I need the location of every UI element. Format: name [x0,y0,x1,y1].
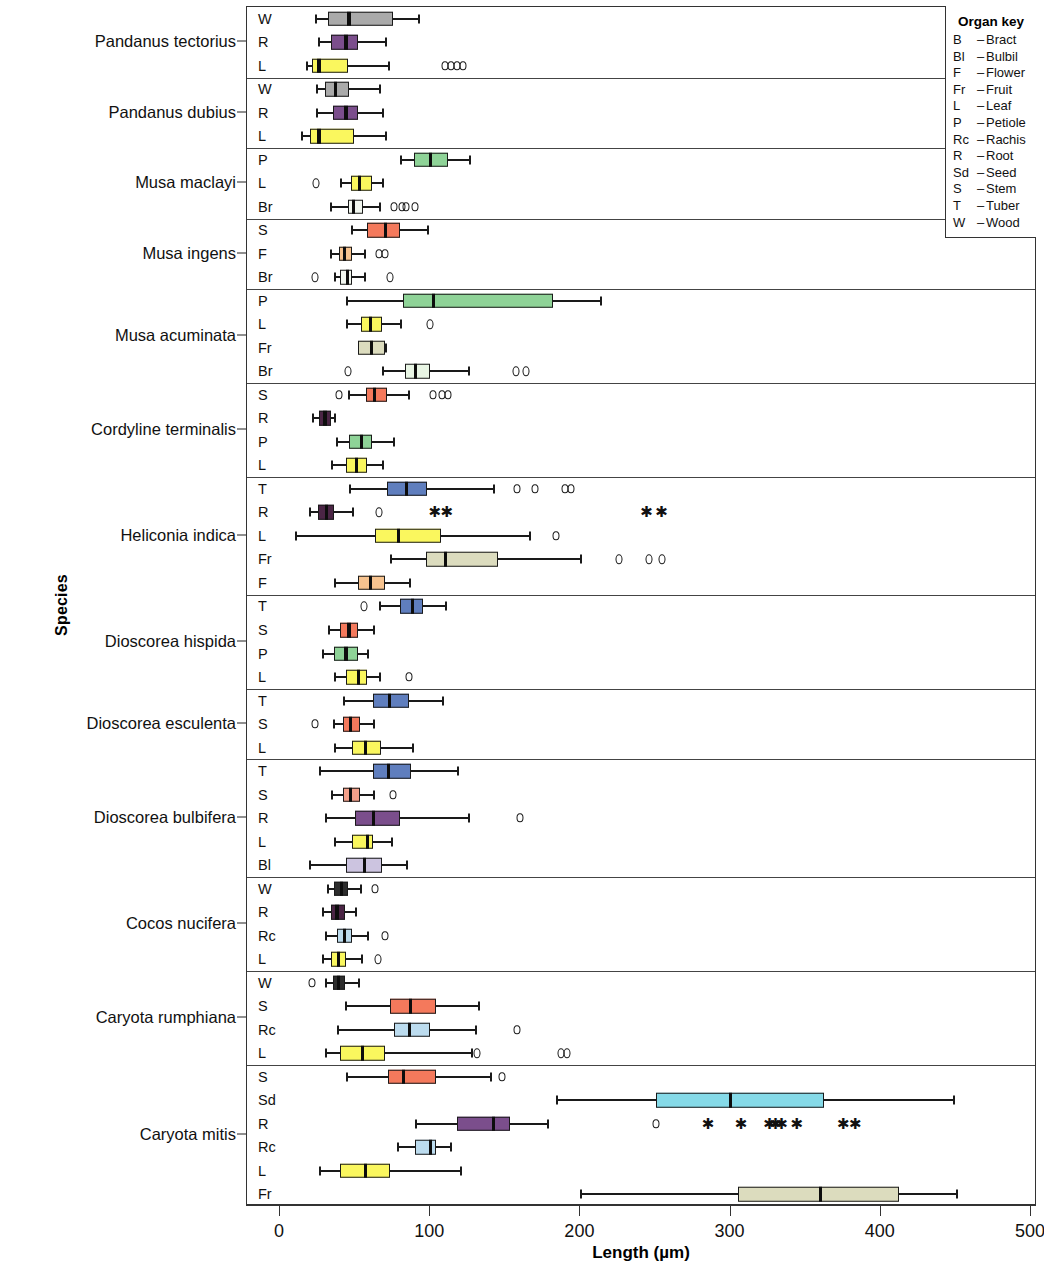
median-line [349,787,352,802]
outlier-marker [553,531,560,540]
whisker-cap-high [364,273,366,282]
whisker-cap-low [316,85,318,94]
box-iqr [405,364,431,379]
legend-abbr: L [953,98,975,115]
outlier-marker [430,390,437,399]
boxplot-row: T [247,759,1035,783]
boxplot-row: Fr [247,548,1035,572]
whisker-cap-high [580,555,582,564]
extreme-outlier-marker: ✱ [735,1116,748,1131]
outlier-marker [512,367,519,376]
median-line [429,1140,432,1155]
whisker-cap-high [360,884,362,893]
whisker-cap-high [953,1096,955,1105]
outlier-marker [391,202,398,211]
box-plot [247,101,1035,125]
species-tick [237,922,246,923]
legend-entry: B–Bract [946,32,1036,49]
boxplot-row: W [247,877,1035,901]
whisker-cap-high [468,814,470,823]
species-tick [237,335,246,336]
whisker-cap-low [301,132,303,141]
boxplot-row: W [247,971,1035,995]
legend-name: Root [986,148,1036,165]
whisker-cap-low [295,531,297,540]
median-line [408,1022,411,1037]
box-plot [247,266,1035,290]
x-axis-tick [429,1205,430,1216]
box-plot [247,1088,1035,1112]
species-label: Cordyline terminalis [91,420,236,439]
whisker-cap-low [306,61,308,70]
boxplot-row: P [247,430,1035,454]
boxplot-row: L [247,125,1035,149]
organ-key-legend: Organ key B–BractBl–BulbilF–FlowerFr–Fru… [945,6,1036,238]
box-plot [247,571,1035,595]
whisker-cap-high [400,320,402,329]
legend-dash: – [975,148,986,165]
median-line [402,1069,405,1084]
box-plot [247,712,1035,736]
species-label: Dioscorea hispida [105,631,236,650]
box-plot [247,78,1035,102]
whisker-cap-low [556,1096,558,1105]
species-label: Musa maclayi [135,173,236,192]
boxplot-row: Sd [247,1088,1035,1112]
box-plot [247,125,1035,149]
legend-abbr: S [953,181,975,198]
box-plot [247,642,1035,666]
whisker-cap-low [346,320,348,329]
boxplot-row: T [247,477,1035,501]
box-iqr [388,1069,436,1084]
boxplot-row: L [247,454,1035,478]
box-plot [247,548,1035,572]
whisker-cap-low [346,1072,348,1081]
species-label: Caryota rumphiana [96,1007,236,1026]
whisker-cap-high [379,673,381,682]
whisker-cap-low [343,696,345,705]
species-label: Cocos nucifera [126,913,236,932]
boxplot-row: S [247,618,1035,642]
whisker-cap-high [547,1119,549,1128]
box-plot [247,783,1035,807]
median-line [337,952,340,967]
whisker-cap-low [333,720,335,729]
species-axis: Pandanus tectoriusPandanus dubiusMusa ma… [0,0,246,1205]
x-axis: 0100200300400500 [246,1205,1036,1206]
species-label: Caryota mitis [140,1125,236,1144]
boxplot-row: F [247,571,1035,595]
boxplot-row: L [247,172,1035,196]
whisker-cap-high [418,14,420,23]
plot-area: WRLWRLPLBrSFBrPLFrBrSRPLTR✱✱✱✱LFrFTSPLTS… [246,6,1036,1205]
median-line [347,12,350,27]
outlier-marker [658,555,665,564]
whisker-cap-high [406,861,408,870]
legend-dash: – [975,98,986,115]
x-axis-tick-label: 500 [1015,1221,1044,1242]
legend-dash: – [975,198,986,215]
whisker-cap-high [956,1190,958,1199]
whisker-cap-low [316,108,318,117]
legend-dash: – [975,115,986,132]
box-iqr [415,1140,436,1155]
x-axis-line [246,1205,1036,1206]
whisker-cap-low [330,202,332,211]
legend-name: Bulbil [986,49,1036,66]
species-label: Musa ingens [142,243,236,262]
legend-entry: R–Root [946,148,1036,165]
median-line [364,1163,367,1178]
box-plot [247,877,1035,901]
outlier-marker [412,202,419,211]
box-plot [247,430,1035,454]
whisker-cap-high [373,626,375,635]
box-iqr [352,834,373,849]
x-axis-tick-label: 200 [564,1221,594,1242]
outlier-marker [460,61,467,70]
legend-name: Flower [986,65,1036,82]
whisker-cap-high [490,1072,492,1081]
legend-abbr: Fr [953,82,975,99]
whisker-cap-low [379,602,381,611]
median-line [361,1046,364,1061]
box-iqr [373,764,411,779]
whisker-cap-high [412,743,414,752]
